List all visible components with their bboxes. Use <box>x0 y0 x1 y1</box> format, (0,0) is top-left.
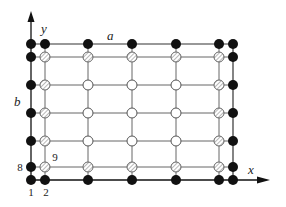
filled-node-icon <box>26 175 36 185</box>
filled-node-icon <box>26 162 36 172</box>
open-node-icon <box>171 108 181 118</box>
open-node-icon <box>171 136 181 146</box>
hatched-node-icon <box>40 162 50 172</box>
filled-node-icon <box>26 39 36 49</box>
filled-node-icon <box>214 39 224 49</box>
hatched-node-icon <box>171 52 181 62</box>
hatched-node-icon <box>40 52 50 62</box>
x-axis-arrow-icon <box>257 177 270 184</box>
filled-node-icon <box>228 136 238 146</box>
filled-node-icon <box>228 39 238 49</box>
filled-node-icon <box>228 162 238 172</box>
open-node-icon <box>127 108 137 118</box>
filled-node-icon <box>83 39 93 49</box>
open-node-icon <box>83 136 93 146</box>
node-number-label: 1 <box>28 186 34 198</box>
hatched-node-icon <box>83 52 93 62</box>
filled-node-icon <box>83 175 93 185</box>
hatched-node-icon <box>214 162 224 172</box>
filled-node-icon <box>228 80 238 90</box>
hatched-node-icon <box>40 136 50 146</box>
node-number-labels: 1289 <box>17 151 58 198</box>
hatched-node-icon <box>214 108 224 118</box>
open-node-icon <box>171 80 181 90</box>
filled-node-icon <box>171 39 181 49</box>
filled-node-icon <box>26 108 36 118</box>
filled-node-icon <box>214 175 224 185</box>
hatched-node-icon <box>214 52 224 62</box>
nodes <box>26 39 238 185</box>
width-label-a: a <box>107 28 114 43</box>
filled-node-icon <box>228 175 238 185</box>
filled-node-icon <box>127 39 137 49</box>
filled-node-icon <box>40 175 50 185</box>
open-node-icon <box>127 80 137 90</box>
hatched-node-icon <box>127 162 137 172</box>
filled-node-icon <box>171 175 181 185</box>
hatched-node-icon <box>127 52 137 62</box>
open-node-icon <box>127 136 137 146</box>
open-node-icon <box>83 108 93 118</box>
node-number-label: 2 <box>43 186 49 198</box>
filled-node-icon <box>26 136 36 146</box>
filled-node-icon <box>26 80 36 90</box>
grid-diagram-canvas: y x a b 1289 <box>0 0 286 207</box>
hatched-node-icon <box>40 80 50 90</box>
node-number-label: 8 <box>17 161 23 173</box>
height-label-b: b <box>14 94 21 109</box>
filled-node-icon <box>127 175 137 185</box>
filled-node-icon <box>40 39 50 49</box>
filled-node-icon <box>228 108 238 118</box>
filled-node-icon <box>228 52 238 62</box>
hatched-node-icon <box>171 162 181 172</box>
node-number-label: 9 <box>52 151 58 163</box>
y-axis-arrow-icon <box>28 11 35 22</box>
hatched-node-icon <box>83 162 93 172</box>
axes <box>28 11 271 184</box>
grid-diagram: y x a b 1289 <box>0 0 286 207</box>
x-axis-label: x <box>247 162 254 177</box>
hatched-node-icon <box>214 136 224 146</box>
filled-node-icon <box>26 52 36 62</box>
open-node-icon <box>83 80 93 90</box>
hatched-node-icon <box>40 108 50 118</box>
y-axis-label: y <box>39 21 47 36</box>
hatched-node-icon <box>214 80 224 90</box>
